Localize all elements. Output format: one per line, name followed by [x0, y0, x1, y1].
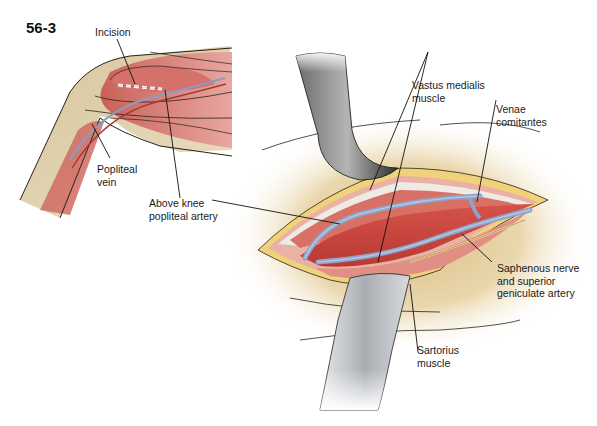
figure-number: 56-3 [26, 19, 56, 36]
label-popliteal-vein: Popliteal vein [97, 163, 137, 188]
label-saphenous-nerve: Saphenous nerve and superior geniculate … [497, 262, 579, 300]
label-above-knee-popliteal-artery: Above knee popliteal artery [149, 197, 218, 222]
label-vastus-medialis-muscle: Vastus medialis muscle [412, 79, 485, 104]
label-sartorius-muscle: Sartorius muscle [417, 344, 459, 369]
label-venae-comitantes: Venae comitantes [496, 103, 547, 128]
inset-knee [20, 39, 232, 218]
illustration [0, 0, 597, 426]
label-incision: Incision [95, 26, 131, 39]
